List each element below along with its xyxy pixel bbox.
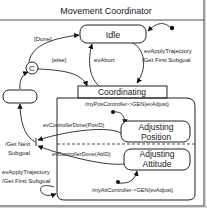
label-get-next-1: /Get Next (5, 141, 31, 147)
frame-title: Movement Coordinator (60, 6, 152, 16)
label-apply-bottom-2: /Get First Subgoal (2, 178, 50, 184)
state-adjusting-attitude-label-2: Attitude (143, 159, 172, 169)
state-diagram: Movement Coordinator Idle C [Done] [else… (0, 0, 207, 210)
label-apply-bottom-1: evApplyTrajectory (2, 169, 50, 175)
label-done: [Done] (34, 36, 52, 42)
label-abort: evAbort (94, 57, 115, 63)
label-else: [else] (52, 57, 67, 63)
state-unnamed[interactable] (3, 90, 37, 103)
state-adjusting-attitude-label-1: Adjusting (140, 149, 175, 159)
label-pos-entry-action: /myPosController->GEN(evAdjust) (85, 101, 169, 107)
label-pos-done: evControllerDone(PosID) (43, 122, 105, 128)
state-adjusting-position-label-1: Adjusting (139, 122, 174, 132)
state-adjusting-attitude[interactable]: Adjusting Attitude (124, 149, 190, 170)
label-get-next-2: Subgoal (8, 150, 30, 156)
choice-label: C (29, 64, 35, 73)
state-coordinating-label: Coordinating (98, 87, 146, 97)
state-adjusting-position-label-2: Position (141, 132, 172, 142)
label-apply-top-2: /Get First Subgoal (142, 57, 190, 63)
state-adjusting-position[interactable]: Adjusting Position (121, 121, 190, 142)
label-att-entry-action: /myAttController->GEN(evAdjust) (92, 187, 173, 193)
label-apply-top-1: evApplyTrajectory (144, 48, 192, 54)
state-idle-label: Idle (106, 30, 121, 40)
state-idle[interactable]: Idle (80, 25, 146, 43)
label-att-done: evControllerDone(AttID) (52, 151, 111, 157)
